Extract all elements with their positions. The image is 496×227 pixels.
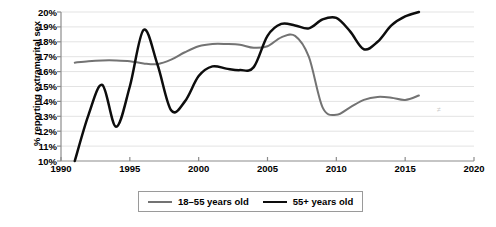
legend-swatch-black-line-icon — [263, 201, 287, 203]
extramarital-sex-line-chart: % reporting extramarital sex 10%11%12%13… — [0, 0, 496, 227]
x-axis-tick-labels: 1990199520002005201020152020 — [0, 163, 496, 179]
legend-label-55-plus: 55+ years old — [293, 196, 353, 207]
legend-item-18-55[interactable]: 18–55 years old — [148, 196, 249, 207]
x-tick-label: 1995 — [108, 163, 152, 174]
x-tick-label: 2015 — [383, 163, 427, 174]
x-tick-label: 1990 — [39, 163, 83, 174]
legend-item-55-plus[interactable]: 55+ years old — [263, 196, 353, 207]
x-tick-label: 2020 — [452, 163, 496, 174]
x-tick-label: 2005 — [246, 163, 290, 174]
x-tick-label: 2010 — [314, 163, 358, 174]
legend-label-18-55: 18–55 years old — [178, 196, 249, 207]
scan-artifact-speck: ≠ — [437, 106, 441, 113]
legend-swatch-gray-line-icon — [148, 201, 172, 203]
x-tick-label: 2000 — [177, 163, 221, 174]
chart-legend: 18–55 years old 55+ years old — [138, 191, 363, 212]
